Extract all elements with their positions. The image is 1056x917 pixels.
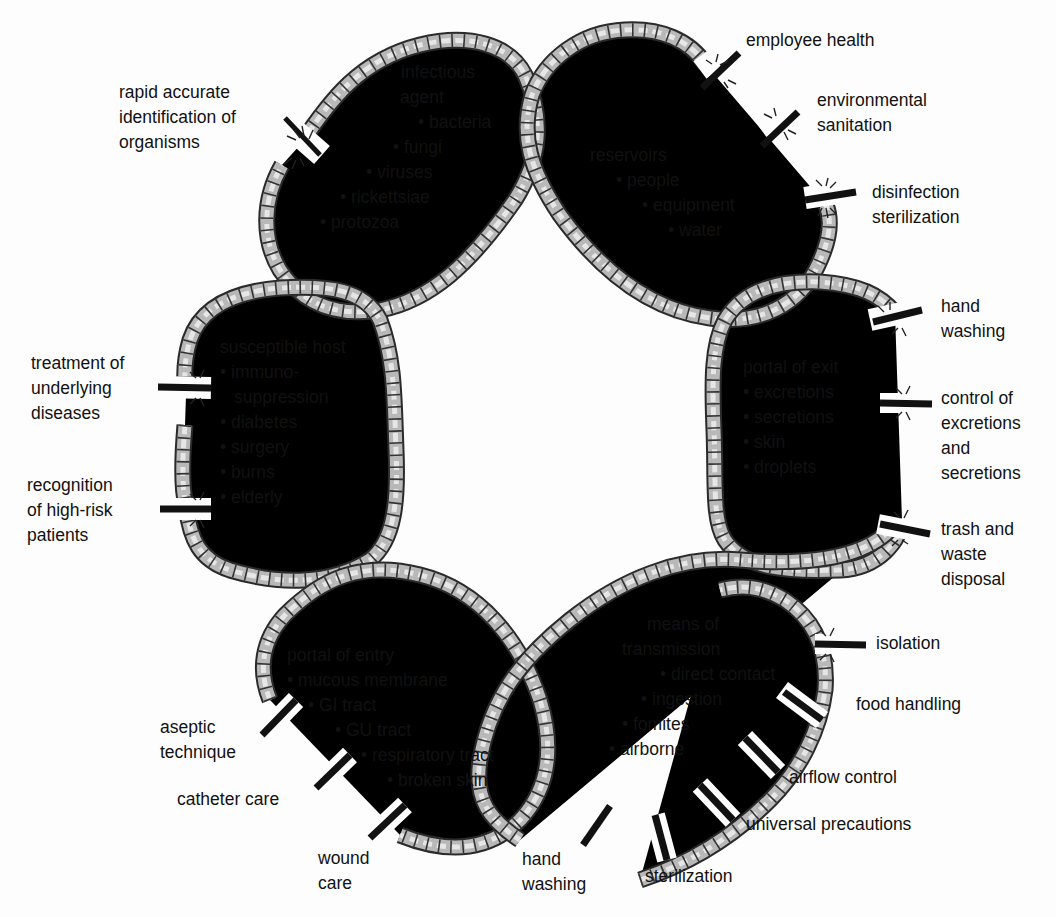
intervention-hand-washing-exit: hand washing xyxy=(941,294,1005,344)
intervention-disinfection-sterilization: disinfection sterilization xyxy=(872,180,960,230)
intervention-rapid-identification: rapid accurate identification of organis… xyxy=(119,80,236,155)
link-portal-of-entry: portal of entry mucous membrane GI tract… xyxy=(287,643,494,793)
link-susceptible-host: susceptible host immuno- suppression dia… xyxy=(220,335,346,510)
intervention-catheter-care: catheter care xyxy=(177,787,279,812)
cut-bar-control-excretions xyxy=(880,403,932,404)
intervention-treatment-underlying: treatment of underlying diseases xyxy=(31,351,124,426)
intervention-isolation: isolation xyxy=(876,631,940,656)
link-means-of-transmission: means of transmission direct contact ing… xyxy=(622,612,775,762)
cut-bar-treatment-underlying xyxy=(158,387,211,388)
intervention-sterilization: sterilization xyxy=(645,864,733,889)
intervention-airflow-control: airflow control xyxy=(789,765,897,790)
link-reservoirs: reservoirs people equipment water xyxy=(590,143,735,243)
intervention-trash-waste: trash and waste disposal xyxy=(941,517,1014,592)
intervention-aseptic-technique: aseptic technique xyxy=(160,715,236,765)
intervention-food-handling: food handling xyxy=(856,692,961,717)
intervention-control-excretions: control of excretions and secretions xyxy=(941,386,1021,486)
cut-bar-isolation xyxy=(815,644,866,645)
link-portal-of-exit: portal of exit excretions secretions ski… xyxy=(743,355,838,480)
intervention-recognition-high-risk: recognition of high-risk patients xyxy=(27,473,113,548)
intervention-universal-precautions: universal precautions xyxy=(746,812,911,837)
link-infectious-agent: infectious agent bacteria fungi viruses … xyxy=(400,60,491,235)
intervention-environmental-sanitation: environmental sanitation xyxy=(817,88,927,138)
intervention-hand-washing-transmission: hand washing xyxy=(522,847,586,897)
intervention-wound-care: wound care xyxy=(318,846,370,896)
intervention-employee-health: employee health xyxy=(746,28,874,53)
